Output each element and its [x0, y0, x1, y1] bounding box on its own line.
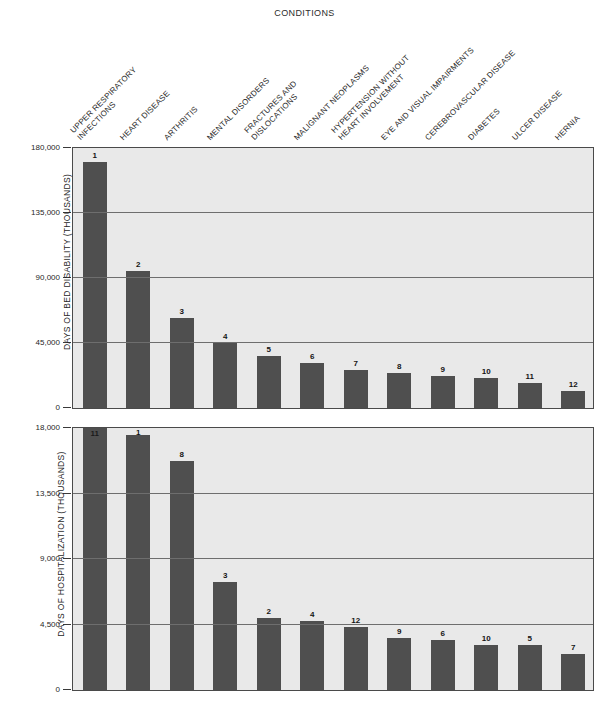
- bar: [474, 378, 498, 408]
- bar-rank-label: 7: [571, 643, 575, 652]
- category-label-8: EYE AND VISUAL IMPAIRMENTS: [380, 45, 477, 142]
- bar-rank-label: 2: [267, 607, 271, 616]
- gridline: [73, 493, 593, 494]
- bar-rank-label: 1: [136, 428, 140, 437]
- bar-rank-label: 10: [482, 367, 491, 376]
- bar-rank-label: 9: [441, 365, 445, 374]
- y-axis-tick: [63, 407, 71, 408]
- bar: [344, 370, 368, 408]
- bar: [344, 627, 368, 690]
- plot-area-bed-disability: 123456789101112: [72, 147, 594, 409]
- gridline: [73, 342, 593, 343]
- bar-rank-label: 7: [354, 359, 358, 368]
- chart-panel-bed-disability: 123456789101112 045,00090,000135,000180,…: [72, 147, 594, 409]
- gridline: [73, 212, 593, 213]
- bar: [213, 343, 237, 408]
- bars-hospitalization: [73, 428, 593, 690]
- bar: [83, 428, 107, 690]
- y-axis-title-hospitalization: DAYS OF HOSPITALIZATION (THOUSANDS): [56, 419, 66, 669]
- bar-rank-label: 11: [526, 372, 534, 381]
- bar: [213, 582, 237, 690]
- category-label-line: HERNIA: [554, 113, 583, 142]
- category-label-10: DIABETES: [467, 106, 503, 142]
- bar-rank-label: 12: [351, 616, 360, 625]
- bar: [431, 640, 455, 690]
- bar-rank-label: 5: [267, 345, 271, 354]
- category-label-band: UPPER RESPIRATORYINFECTIONSHEART DISEASE…: [0, 24, 609, 144]
- bar-rank-label: 6: [310, 352, 314, 361]
- gridline: [73, 624, 593, 625]
- category-label-line: DIABETES: [467, 106, 502, 141]
- bar: [170, 318, 194, 408]
- bar: [300, 621, 324, 690]
- bar: [518, 645, 542, 690]
- bar-rank-label: 4: [310, 610, 314, 619]
- bar: [387, 373, 411, 408]
- gridline: [73, 277, 593, 278]
- bar-rank-label: 4: [223, 332, 227, 341]
- y-axis-tick-label: 135,000: [31, 208, 60, 217]
- bar: [561, 654, 585, 690]
- category-label-9: CEREBROVASCULAR DISEASE: [423, 48, 517, 142]
- y-axis-hospitalization: 04,5009,00013,50018,000: [71, 427, 72, 691]
- y-axis-tick-label: 0: [56, 403, 60, 412]
- bar-rank-label: 10: [482, 634, 491, 643]
- bar: [300, 363, 324, 408]
- bar: [126, 271, 150, 408]
- bar-rank-label: 1: [93, 151, 97, 160]
- y-axis-tick-label: 0: [56, 685, 60, 694]
- page-title: CONDITIONS: [0, 8, 609, 18]
- bar: [561, 391, 585, 408]
- category-label-12: HERNIA: [554, 113, 583, 142]
- category-label-line: HEART INVOLVEMENT: [336, 60, 418, 142]
- bar: [518, 383, 542, 408]
- bar-rank-label: 9: [397, 627, 401, 636]
- y-axis-title-bed-disability: DAYS OF BED DISABILITY (THOUSANDS): [62, 137, 72, 387]
- bar: [257, 618, 281, 690]
- bar: [431, 376, 455, 408]
- bar-rank-label: 12: [569, 380, 578, 389]
- bars-bed-disability: [73, 148, 593, 408]
- y-axis-tick: [63, 689, 71, 690]
- y-axis-tick-label: 180,000: [31, 143, 60, 152]
- category-label-3: ARTHRITIS: [162, 104, 200, 142]
- bar: [474, 645, 498, 690]
- bar-rank-label: 3: [180, 307, 184, 316]
- chart-panel-hospitalization: 111832412961057 04,5009,00013,50018,000 …: [72, 427, 594, 691]
- bar: [257, 356, 281, 408]
- bar: [83, 162, 107, 408]
- y-axis-tick-label: 45,000: [36, 338, 60, 347]
- category-label-line: UPPER RESPIRATORY: [68, 65, 138, 135]
- bar-rank-label: 6: [441, 629, 445, 638]
- bar: [170, 461, 194, 690]
- category-label-line: CEREBROVASCULAR DISEASE: [423, 48, 517, 142]
- category-label-line: ARTHRITIS: [162, 104, 199, 141]
- gridline: [73, 558, 593, 559]
- bar-rank-label: 2: [136, 260, 140, 269]
- bar-rank-label: 3: [223, 571, 227, 580]
- bar-rank-label: 5: [528, 634, 532, 643]
- category-label-line: EYE AND VISUAL IMPAIRMENTS: [380, 45, 476, 141]
- bar-rank-label: 11: [91, 429, 99, 438]
- bar: [387, 638, 411, 690]
- bar-rank-label: 8: [180, 450, 184, 459]
- bar: [126, 435, 150, 690]
- y-axis-tick-label: 90,000: [36, 273, 60, 282]
- bar-rank-label: 8: [397, 362, 401, 371]
- plot-area-hospitalization: 111832412961057: [72, 427, 594, 691]
